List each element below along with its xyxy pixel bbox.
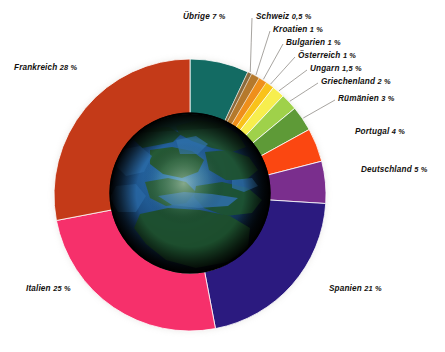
label-spanien: Spanien 21 % [329,285,382,293]
label-oesterreich-name: Österreich [298,51,340,60]
leader-line [256,31,270,75]
label-schweiz-name: Schweiz [256,12,289,21]
label-italien-pct: 25 % [53,284,70,293]
label-ungarn-pct: 1,5 % [342,64,362,73]
label-ruemaenien-pct: 3 % [381,94,394,103]
leader-line [290,83,318,101]
label-griechenland-name: Griechenland [321,77,375,86]
label-ruemaenien: Rümänien 3 % [338,95,394,103]
label-ruemaenien-name: Rümänien [338,94,379,103]
label-frankreich-name: Frankreich [14,63,57,72]
label-bulgarien-name: Bulgarien [286,38,325,47]
label-oesterreich-pct: 1 % [343,51,356,60]
label-portugal: Portugal 4 % [355,128,405,136]
label-ungarn-name: Ungarn [310,64,340,73]
label-italien-name: Italien [26,284,51,293]
leader-line [303,100,335,118]
donut-chart-svg [0,0,445,352]
label-portugal-name: Portugal [355,127,389,136]
leader-line [279,70,307,91]
label-kroatien: Kroatien 1 % [273,26,323,34]
label-italien: Italien 25 % [26,285,71,293]
label-bulgarien: Bulgarien 1 % [286,39,341,47]
leader-line [250,18,252,72]
label-bulgarien-pct: 1 % [328,38,341,47]
donut-chart: Übrige 7 % Schweiz 0,5 % Kroatien 1 % Bu… [0,0,445,352]
label-uebrige-pct: 7 % [212,12,225,21]
label-kroatien-pct: 1 % [310,25,323,34]
label-uebrige-name: Übrige [183,12,210,21]
label-oesterreich: Österreich 1 % [298,52,356,60]
label-ungarn: Ungarn 1,5 % [310,65,362,73]
label-portugal-pct: 4 % [392,127,405,136]
label-uebrige: Übrige 7 % [183,13,225,21]
label-griechenland: Griechenland 2 % [321,78,391,86]
label-schweiz: Schweiz 0,5 % [256,13,311,21]
label-spanien-pct: 21 % [364,284,381,293]
globe-europe-image [110,112,271,274]
label-frankreich: Frankreich 28 % [14,64,77,72]
leader-line [263,44,283,79]
label-spanien-name: Spanien [329,284,362,293]
label-griechenland-pct: 2 % [378,77,391,86]
leader-line [271,57,295,84]
label-frankreich-pct: 28 % [60,63,77,72]
label-deutschland-pct: 5 % [414,165,427,174]
label-deutschland: Deutschland 5 % [361,166,427,174]
label-kroatien-name: Kroatien [273,25,307,34]
label-deutschland-name: Deutschland [361,165,412,174]
label-schweiz-pct: 0,5 % [292,12,312,21]
